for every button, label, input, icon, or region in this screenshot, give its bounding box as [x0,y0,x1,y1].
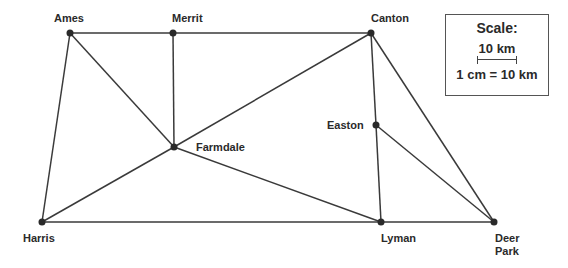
scale-ratio: 1 cm = 10 km [446,67,548,82]
town-label-deerpark-line2: Park [495,245,520,257]
road-ames-harris [42,33,70,222]
scale-legend: Scale: 10 km 1 cm = 10 km [445,14,549,96]
road-easton-lyman [376,125,381,222]
town-label-deerpark: Deer [495,232,520,244]
town-marker-harris [39,219,46,226]
scale-title: Scale: [446,20,548,36]
town-marker-farmdale [171,144,178,151]
town-label-easton: Easton [327,119,364,131]
town-marker-easton [373,122,380,129]
town-marker-lyman [378,219,385,226]
road-merrit-farmdale [173,33,174,147]
road-harris-farmdale [42,147,174,222]
road-ames-farmdale [70,33,174,147]
road-canton-easton [371,33,376,125]
town-marker-merrit [170,30,177,37]
town-label-harris: Harris [23,232,55,244]
town-marker-ames [67,30,74,37]
town-label-ames: Ames [54,12,84,24]
scale-bar [477,56,517,64]
towns [39,30,498,226]
town-label-canton: Canton [371,12,409,24]
road-farmdale-lyman [174,147,381,222]
town-label-farmdale: Farmdale [196,141,245,153]
town-label-lyman: Lyman [381,232,416,244]
town-marker-canton [368,30,375,37]
town-marker-deerpark [491,219,498,226]
roads [42,33,494,222]
road-easton-deerpark [376,125,494,222]
scale-distance: 10 km [446,41,548,56]
town-label-merrit: Merrit [172,12,203,24]
